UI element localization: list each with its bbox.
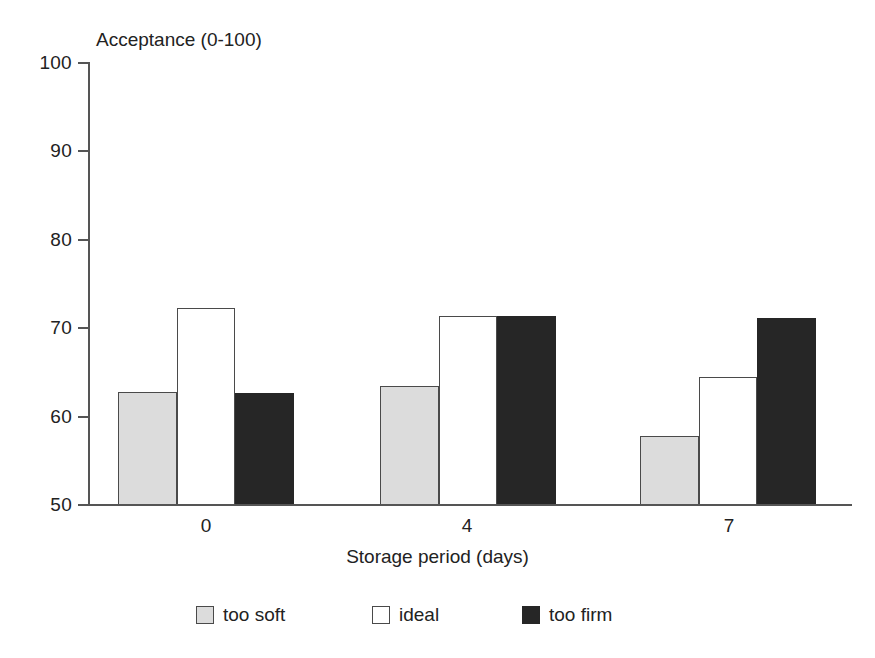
legend-label-too-firm: too firm <box>549 604 612 626</box>
legend-swatch-icon-too-soft <box>196 606 214 624</box>
legend-swatch-icon-ideal <box>372 606 390 624</box>
x-axis-title: Storage period (days) <box>0 546 875 568</box>
legend-label-too-soft: too soft <box>223 604 285 626</box>
bar-too-soft-4 <box>380 386 439 505</box>
bar-chart: Acceptance (0-100) 100 90 80 70 60 50 <box>0 0 875 658</box>
legend-swatch-icon-too-firm <box>522 606 540 624</box>
bar-too-firm-0 <box>235 393 294 505</box>
x-tick-label-0: 0 <box>166 515 246 537</box>
bar-too-soft-0 <box>118 392 177 505</box>
bar-too-firm-7 <box>757 318 816 505</box>
chart-legend: too soft ideal too firm <box>0 604 875 634</box>
bar-ideal-7 <box>699 377 758 505</box>
bar-too-soft-7 <box>640 436 699 505</box>
legend-item-too-soft: too soft <box>196 604 285 626</box>
x-tick-label-7: 7 <box>689 515 769 537</box>
bars-layer <box>0 0 875 505</box>
x-axis-line <box>88 504 852 506</box>
bar-ideal-4 <box>439 316 498 505</box>
x-tick-label-4: 4 <box>427 515 507 537</box>
legend-item-too-firm: too firm <box>522 604 612 626</box>
legend-label-ideal: ideal <box>399 604 439 626</box>
bar-too-firm-4 <box>497 316 556 505</box>
page-scan-artifact <box>30 643 35 658</box>
bar-ideal-0 <box>177 308 236 505</box>
legend-item-ideal: ideal <box>372 604 439 626</box>
